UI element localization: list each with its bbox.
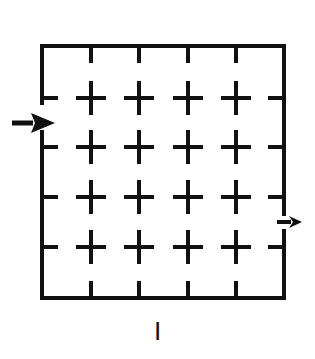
entry-arrow-icon xyxy=(12,113,55,133)
exit-arrow-icon xyxy=(277,216,302,228)
outer-box xyxy=(42,46,284,298)
flow-arrows xyxy=(12,113,302,228)
cross-markers xyxy=(78,83,249,262)
grid-diagram: I xyxy=(0,0,315,359)
figure-caption: I xyxy=(0,316,315,346)
diagram-canvas xyxy=(0,0,315,359)
edge-ticks xyxy=(42,46,284,298)
